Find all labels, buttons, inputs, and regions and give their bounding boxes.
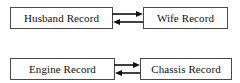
record-box-engine-label: Engine Record xyxy=(26,64,99,75)
record-relationship-diagram: Husband Record Wife Record Engine Record xyxy=(0,0,240,83)
connector-marriage xyxy=(112,7,144,29)
record-box-engine[interactable]: Engine Record xyxy=(10,58,115,80)
record-box-husband[interactable]: Husband Record xyxy=(10,7,113,29)
record-box-wife[interactable]: Wife Record xyxy=(143,7,228,29)
arrow-right-icon xyxy=(112,11,143,17)
arrow-right-icon xyxy=(114,62,140,68)
record-box-wife-label: Wife Record xyxy=(154,13,217,24)
connector-vehicle xyxy=(114,58,141,80)
relation-group-vehicle: Engine Record Chassis Record xyxy=(0,58,240,82)
arrow-left-icon xyxy=(115,70,141,76)
record-box-husband-label: Husband Record xyxy=(21,13,102,24)
record-box-chassis-label: Chassis Record xyxy=(148,64,224,75)
record-box-chassis[interactable]: Chassis Record xyxy=(140,58,232,80)
arrow-left-icon xyxy=(113,19,144,25)
relation-group-marriage: Husband Record Wife Record xyxy=(0,7,240,31)
